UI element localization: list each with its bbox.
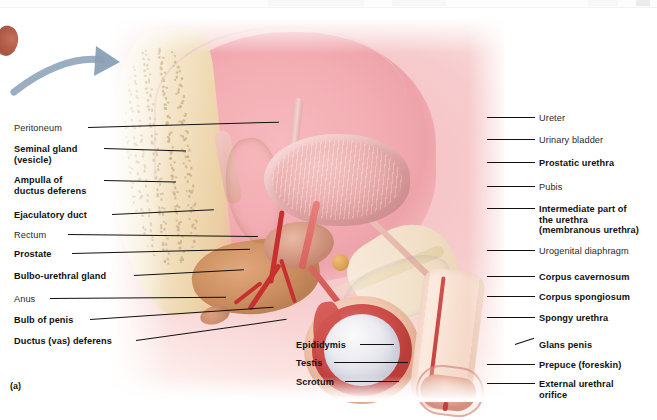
label-anus: Anus [14, 294, 35, 305]
label-urogenital-diaphragm: Urogenital diaphragm [539, 246, 629, 257]
bladder-muscle-striae-art [272, 140, 402, 220]
label-prostate: Prostate [14, 249, 52, 260]
label-glans-penis: Glans penis [539, 340, 592, 351]
leader-line [515, 338, 534, 345]
label-urinary-bladder: Urinary bladder [539, 135, 603, 146]
orientation-arrow-icon [8, 30, 128, 102]
leader-line [345, 381, 399, 382]
label-peritoneum: Peritoneum [14, 123, 62, 134]
label-epididymis: Epididymis [296, 340, 346, 351]
leader-line [487, 276, 535, 277]
leader-line [487, 162, 535, 163]
label-testis: Testis [296, 358, 322, 369]
leader-line [487, 117, 535, 118]
leader-line [360, 344, 394, 345]
label-intermediate-part-of: Intermediate part of the urethra (membra… [539, 204, 639, 236]
label-bulb-of-penis: Bulb of penis [14, 315, 73, 326]
leader-line [334, 362, 408, 363]
figure-caption: (a) [10, 381, 21, 391]
leader-line [487, 208, 535, 209]
label-pubis: Pubis [539, 182, 562, 193]
leader-line [487, 383, 535, 384]
label-ureter: Ureter [539, 113, 565, 124]
label-corpus-spongiosum: Corpus spongiosum [539, 292, 630, 303]
edge-fade [96, 14, 516, 54]
label-ductus-vas-deferens: Ductus (vas) deferens [14, 336, 112, 347]
label-prostatic-urethra: Prostatic urethra [539, 158, 614, 169]
leader-line [487, 250, 535, 251]
bulbo-urethral-gland-art [332, 254, 349, 271]
label-ampulla-of: Ampulla of ductus deferens [14, 175, 86, 196]
leader-line [487, 186, 535, 187]
label-bulbo-urethral-gland: Bulbo-urethral gland [14, 271, 106, 282]
leader-line [487, 317, 535, 318]
label-scrotum: Scrotum [296, 377, 334, 388]
label-ejaculatory-duct: Ejaculatory duct [14, 210, 87, 221]
leader-line [487, 139, 535, 140]
label-spongy-urethra: Spongy urethra [539, 313, 608, 324]
leader-line [487, 296, 535, 297]
label-corpus-cavernosum: Corpus cavernosum [539, 272, 629, 283]
top-toolbar-remnant [0, 0, 657, 8]
label-external-urethral: External urethral orifice [539, 379, 614, 400]
label-prepuce-foreskin: Prepuce (foreskin) [539, 360, 621, 371]
label-rectum: Rectum [14, 230, 46, 241]
label-seminal-gland: Seminal gland (vesicle) [14, 144, 77, 165]
leader-line [487, 364, 535, 365]
